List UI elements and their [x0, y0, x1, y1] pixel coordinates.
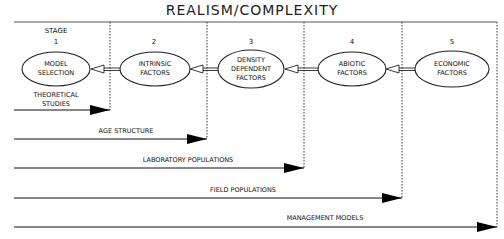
connector-5-to-4 — [386, 65, 415, 73]
stage-3-line-3: FACTORS — [236, 74, 266, 82]
arrow-label-age-structure: AGE STRUCTURE — [99, 127, 154, 135]
stage-3-line-2: DEPENDENT — [231, 65, 271, 73]
arrow-label-theoretical-2: STUDIES — [42, 100, 70, 108]
stage-5-line-1: ECONOMIC — [434, 60, 470, 68]
stage-4-line-1: ABIOTIC — [339, 60, 366, 68]
stage-1-line-2: SELECTION — [38, 69, 75, 77]
stage-number-3: 3 — [249, 38, 253, 46]
stage-number-1: 1 — [54, 38, 58, 46]
stage-label: STAGE — [45, 27, 68, 35]
stage-4-line-2: FACTORS — [337, 69, 367, 77]
arrow-label-field-populations: FIELD POPULATIONS — [210, 186, 276, 194]
arrow-label-management-models: MANAGEMENT MODELS — [287, 214, 364, 222]
arrow-label-theoretical-1: THEORETICAL — [32, 91, 79, 99]
stage-2-line-2: FACTORS — [140, 69, 170, 77]
stage-2-line-1: INTRINSIC — [139, 60, 172, 68]
connector-3-to-2 — [190, 65, 218, 73]
scope-arrows — [14, 110, 497, 227]
arrow-label-laboratory-populations: LABORATORY POPULATIONS — [143, 156, 234, 164]
realism-complexity-diagram: STAGE 1 2 3 4 5 MODEL SELECTION IN — [0, 0, 504, 239]
connector-4-to-3 — [285, 65, 318, 73]
connector-2-to-1 — [91, 65, 120, 73]
stage-number-5: 5 — [450, 38, 454, 46]
stage-5-line-2: FACTORS — [437, 69, 467, 77]
stage-number-2: 2 — [152, 38, 156, 46]
stage-1-line-1: MODEL — [44, 60, 68, 68]
stage-3-line-1: DENSITY — [237, 56, 265, 64]
stage-number-4: 4 — [350, 38, 355, 46]
